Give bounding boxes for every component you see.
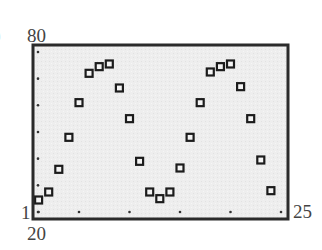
y-tick-mark xyxy=(37,51,40,54)
y-tick-mark xyxy=(37,184,40,187)
data-point-marker xyxy=(177,164,184,171)
x-tick-mark xyxy=(280,211,283,214)
data-point-marker xyxy=(217,63,224,70)
data-point-marker xyxy=(45,188,52,195)
x-tick-mark xyxy=(37,211,40,214)
x-tick-mark xyxy=(179,211,182,214)
data-point-marker xyxy=(76,99,83,106)
data-point-marker xyxy=(55,166,62,173)
y-max-label: 80 xyxy=(27,26,46,45)
y-tick-mark xyxy=(37,104,40,107)
data-point-marker xyxy=(65,134,72,141)
x-tick-mark xyxy=(229,211,232,214)
data-point-marker xyxy=(197,99,204,106)
data-point-marker xyxy=(116,84,123,91)
data-point-marker xyxy=(166,188,173,195)
data-point-marker xyxy=(257,156,264,163)
data-point-marker xyxy=(96,63,103,70)
data-point-marker xyxy=(156,195,163,202)
y-tick-mark xyxy=(37,157,40,160)
data-point-marker xyxy=(86,70,93,77)
data-point-marker xyxy=(136,158,143,165)
data-point-marker xyxy=(267,187,274,194)
data-point-marker xyxy=(227,60,234,67)
y-min-label: 20 xyxy=(27,224,46,243)
data-point-marker xyxy=(207,68,214,75)
x-max-label: 25 xyxy=(293,202,312,221)
plot-area xyxy=(33,45,288,219)
scatter-plot xyxy=(0,0,322,250)
x-tick-mark xyxy=(128,211,131,214)
data-point-marker xyxy=(247,115,254,122)
x-min-label: 1 xyxy=(21,203,31,222)
x-tick-mark xyxy=(78,211,81,214)
y-tick-mark xyxy=(37,77,40,80)
data-point-marker xyxy=(187,134,194,141)
data-point-marker xyxy=(146,188,153,195)
data-point-marker xyxy=(106,60,113,67)
data-point-marker xyxy=(237,83,244,90)
data-point-marker xyxy=(126,115,133,122)
y-tick-mark xyxy=(37,131,40,134)
data-point-marker xyxy=(35,196,42,203)
